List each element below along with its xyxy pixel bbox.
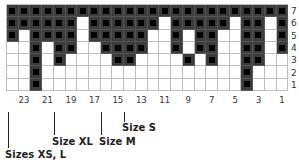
stitch-cell-r3-c19 [66,54,78,66]
stitch-cell-r6-c15 [112,17,124,29]
stitch-cell-r1-c1 [277,79,289,91]
stitch-cell-r5-c20 [54,30,66,42]
stitch-cell-r2-c19 [66,66,78,78]
stitch-cell-r7-c21 [42,5,54,17]
size-label-xl: Size XL [52,136,93,147]
stitch-cell-r5-c17 [89,30,101,42]
stitch-cell-r5-c7 [206,30,218,42]
column-label: 9 [186,95,191,105]
stitch-cell-r6-c5 [230,17,242,29]
stitch-cell-r4-c2 [265,42,277,54]
stitch-cell-r2-c4 [241,66,253,78]
stitch-cell-r5-c23 [19,30,31,42]
stitch-cell-r3-c12 [148,54,160,66]
stitch-cell-r1-c17 [89,79,101,91]
column-label: 13 [136,95,147,105]
stitch-cell-r2-c1 [277,66,289,78]
stitch-cell-r1-c5 [230,79,242,91]
stitch-cell-r6-c21 [42,17,54,29]
stitch-cell-r1-c22 [30,79,42,91]
stitch-cell-r4-c4 [241,42,253,54]
stitch-cell-r5-c19 [66,30,78,42]
stitch-cell-r6-c16 [101,17,113,29]
stitch-cell-r3-c16 [101,54,113,66]
stitch-cell-r1-c18 [77,79,89,91]
stitch-cell-r6-c4 [241,17,253,29]
stitch-cell-r6-c22 [30,17,42,29]
stitch-cell-r7-c24 [7,5,19,17]
stitch-cell-r1-c8 [195,79,207,91]
stitch-cell-r6-c9 [183,17,195,29]
stitch-cell-r5-c5 [230,30,242,42]
stitch-cell-r3-c8 [195,54,207,66]
stitch-cell-r7-c8 [195,5,207,17]
stitch-cell-r3-c18 [77,54,89,66]
stitch-cell-r1-c3 [253,79,265,91]
stitch-cell-r7-c17 [89,5,101,17]
stitch-cell-r4-c16 [101,42,113,54]
stitch-cell-r5-c1 [277,30,289,42]
stitch-cell-r6-c17 [89,17,101,29]
stitch-cell-r5-c9 [183,30,195,42]
stitch-cell-r1-c11 [159,79,171,91]
stitch-cell-r1-c10 [171,79,183,91]
stitch-cell-r4-c1 [277,42,289,54]
stitch-cell-r5-c6 [218,30,230,42]
stitch-cell-r6-c20 [54,17,66,29]
stitch-cell-r2-c10 [171,66,183,78]
row-label: 4 [291,42,297,54]
stitch-cell-r2-c21 [42,66,54,78]
column-label: 19 [66,95,77,105]
stitch-cell-r4-c6 [218,42,230,54]
stitch-cell-r2-c7 [206,66,218,78]
column-number-labels: 2321191715131197531 [6,95,288,107]
stitch-cell-r2-c6 [218,66,230,78]
stitch-cell-r2-c22 [30,66,42,78]
stitch-cell-r4-c20 [54,42,66,54]
stitch-cell-r4-c18 [77,42,89,54]
stitch-cell-r3-c22 [30,54,42,66]
size-marker-line-s [124,112,125,122]
column-label: 7 [209,95,214,105]
stitch-cell-r3-c23 [19,54,31,66]
stitch-cell-r2-c23 [19,66,31,78]
stitch-cell-r4-c21 [42,42,54,54]
stitch-cell-r6-c6 [218,17,230,29]
stitch-cell-r7-c22 [30,5,42,17]
stitch-cell-r5-c11 [159,30,171,42]
stitch-cell-r6-c23 [19,17,31,29]
row-label: 3 [291,54,297,66]
stitch-cell-r4-c5 [230,42,242,54]
stitch-cell-r1-c9 [183,79,195,91]
stitch-cell-r7-c14 [124,5,136,17]
stitch-cell-r7-c10 [171,5,183,17]
stitch-cell-r5-c24 [7,30,19,42]
stitch-cell-r2-c8 [195,66,207,78]
stitch-cell-r2-c11 [159,66,171,78]
stitch-cell-r6-c3 [253,17,265,29]
stitch-cell-r6-c7 [206,17,218,29]
stitch-cell-r1-c4 [241,79,253,91]
stitch-cell-r3-c6 [218,54,230,66]
stitch-cell-r7-c9 [183,5,195,17]
stitch-cell-r1-c13 [136,79,148,91]
stitch-cell-r7-c3 [253,5,265,17]
stitch-cell-r2-c20 [54,66,66,78]
stitch-cell-r3-c5 [230,54,242,66]
stitch-cell-r7-c16 [101,5,113,17]
stitch-cell-r2-c18 [77,66,89,78]
stitch-cell-r6-c1 [277,17,289,29]
stitch-cell-r6-c10 [171,17,183,29]
stitch-cell-r4-c19 [66,42,78,54]
stitch-cell-r4-c14 [124,42,136,54]
stitch-cell-r1-c2 [265,79,277,91]
row-label: 5 [291,30,297,42]
stitch-grid [6,4,288,91]
row-label: 7 [291,5,297,17]
size-marker-line-xl [54,112,55,135]
stitch-cell-r3-c20 [54,54,66,66]
column-label: 1 [279,95,284,105]
row-label: 2 [291,67,297,79]
stitch-cell-r4-c17 [89,42,101,54]
stitch-cell-r3-c21 [42,54,54,66]
